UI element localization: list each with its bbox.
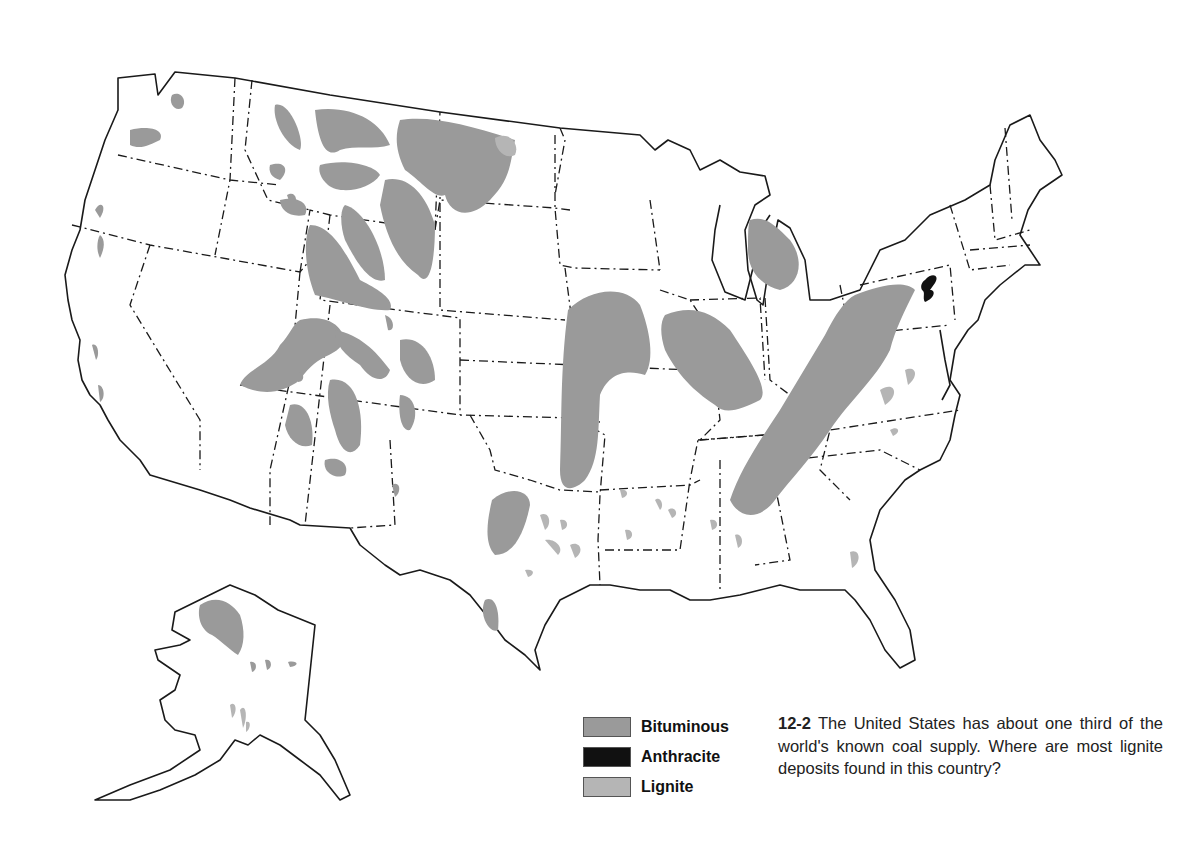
legend-item-lignite: Lignite xyxy=(583,772,729,802)
map-legend: Bituminous Anthracite Lignite xyxy=(583,712,729,802)
anthracite-swatch xyxy=(583,747,631,767)
figure-number: 12-2 xyxy=(778,714,811,732)
legend-item-anthracite: Anthracite xyxy=(583,742,729,772)
legend-label: Bituminous xyxy=(641,718,729,736)
lignite-swatch xyxy=(583,777,631,797)
legend-label: Anthracite xyxy=(641,748,720,766)
bituminous-swatch xyxy=(583,717,631,737)
legend-item-bituminous: Bituminous xyxy=(583,712,729,742)
legend-label: Lignite xyxy=(641,778,693,796)
caption-text: The United States has about one third of… xyxy=(778,714,1163,777)
figure-caption: 12-2 The United States has about one thi… xyxy=(778,712,1163,780)
